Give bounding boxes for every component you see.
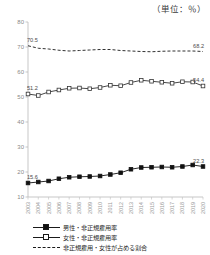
svg-text:68.2: 68.2 (193, 43, 204, 49)
svg-text:54.4: 54.4 (193, 77, 204, 83)
legend-label-male: 男性・非正規雇用率 (60, 223, 117, 232)
chart-legend: 男性・非正規雇用率 女性・非正規雇用率 非正規雇用・女性が占める割合 (33, 222, 183, 252)
svg-text:50: 50 (17, 94, 24, 100)
svg-text:2018: 2018 (179, 202, 185, 214)
chart-container: （単位：％） 807060504030201020032004200520062… (0, 0, 210, 255)
svg-text:2005: 2005 (46, 202, 52, 214)
svg-text:20: 20 (17, 169, 24, 175)
svg-text:15.6: 15.6 (27, 174, 38, 180)
svg-text:2003: 2003 (25, 202, 31, 214)
legend-item-male: 男性・非正規雇用率 (33, 222, 183, 232)
svg-text:2010: 2010 (97, 202, 103, 214)
svg-text:2012: 2012 (118, 202, 124, 214)
svg-text:30: 30 (17, 144, 24, 150)
legend-key-female (33, 233, 60, 242)
svg-text:2013: 2013 (128, 202, 134, 214)
legend-key-male (33, 223, 60, 232)
svg-text:2009: 2009 (87, 202, 93, 214)
svg-text:80: 80 (17, 19, 24, 25)
svg-text:2004: 2004 (35, 202, 41, 214)
svg-text:2017: 2017 (169, 202, 175, 214)
legend-key-share (33, 243, 60, 252)
svg-text:70: 70 (17, 44, 24, 50)
svg-text:2006: 2006 (56, 202, 62, 214)
svg-text:2011: 2011 (107, 202, 113, 214)
svg-text:51.2: 51.2 (27, 85, 38, 91)
svg-text:2016: 2016 (159, 202, 165, 214)
svg-text:2007: 2007 (66, 202, 72, 214)
svg-text:22.3: 22.3 (193, 158, 204, 164)
svg-text:2014: 2014 (138, 202, 144, 214)
svg-text:70.5: 70.5 (27, 37, 38, 43)
legend-item-female: 女性・非正規雇用率 (33, 232, 183, 242)
svg-text:2008: 2008 (76, 202, 82, 214)
svg-text:2019: 2019 (190, 202, 196, 214)
svg-text:2020: 2020 (200, 202, 206, 214)
svg-text:40: 40 (17, 119, 24, 125)
svg-text:2015: 2015 (149, 202, 155, 214)
svg-text:10: 10 (17, 194, 24, 200)
svg-text:60: 60 (17, 69, 24, 75)
line-chart-plot: 8070605040302010200320042005200620072008… (0, 0, 210, 255)
legend-label-female: 女性・非正規雇用率 (60, 233, 117, 242)
legend-label-share: 非正規雇用・女性が占める割合 (60, 243, 147, 252)
legend-item-share: 非正規雇用・女性が占める割合 (33, 242, 183, 252)
